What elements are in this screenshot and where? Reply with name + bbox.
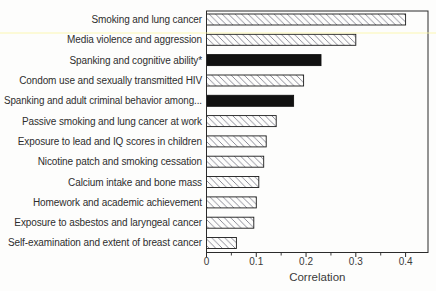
bar <box>207 116 277 127</box>
category-label: Spanking and cognitive ability* <box>69 55 202 66</box>
bar <box>207 14 406 25</box>
x-axis-title: Correlation <box>289 271 345 283</box>
bar <box>207 177 259 188</box>
plot-frame <box>207 11 429 253</box>
category-label: Calcium intake and bone mass <box>68 177 202 188</box>
correlation-bar-chart: Smoking and lung cancerMedia violence an… <box>0 0 436 291</box>
category-label: Exposure to lead and IQ scores in childr… <box>18 136 202 147</box>
bar <box>207 95 294 106</box>
bar <box>207 75 304 86</box>
category-label: Condom use and sexually transmitted HIV <box>19 75 202 86</box>
x-tick-label: 0.3 <box>349 256 363 267</box>
bar <box>207 197 257 208</box>
category-label: Passive smoking and lung cancer at work <box>22 116 203 127</box>
category-label: Exposure to asbestos and laryngeal cance… <box>14 217 202 228</box>
bar <box>207 55 322 66</box>
figure: Smoking and lung cancerMedia violence an… <box>0 0 436 291</box>
category-label: Spanking and adult criminal behavior amo… <box>4 95 202 106</box>
category-label: Self-examination and extent of breast ca… <box>8 237 203 248</box>
x-tick-label: 0.1 <box>249 256 263 267</box>
bar <box>207 34 356 45</box>
category-label: Homework and academic achievement <box>33 197 202 208</box>
bar <box>207 156 264 167</box>
category-label: Nicotine patch and smoking cessation <box>38 156 202 167</box>
x-tick-label: 0.2 <box>299 256 313 267</box>
category-label: Media violence and aggression <box>67 34 202 45</box>
bar <box>207 217 254 228</box>
bar <box>207 238 237 249</box>
category-label: Smoking and lung cancer <box>91 14 202 25</box>
x-tick-label: 0.4 <box>399 256 413 267</box>
bar <box>207 136 267 147</box>
x-tick-label: 0 <box>204 256 210 267</box>
